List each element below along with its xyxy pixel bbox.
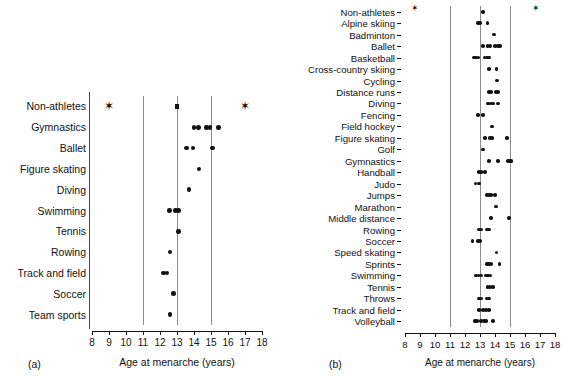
- data-point: [176, 208, 181, 213]
- data-point: [478, 239, 482, 243]
- row-tick: [397, 92, 401, 93]
- x-axis-tick-label: 8: [89, 337, 95, 348]
- gridline-15: [510, 6, 511, 327]
- panel-b-tag: (b): [329, 358, 342, 370]
- x-axis-tick-label: 10: [430, 339, 441, 350]
- x-axis-tick-label: 16: [222, 337, 233, 348]
- data-point: [488, 44, 492, 48]
- data-point: [489, 90, 493, 94]
- row-label: Cycling: [364, 75, 395, 86]
- x-axis-tick-label: 11: [138, 337, 148, 348]
- row-label: Non-athletes: [341, 6, 395, 17]
- row-tick: [397, 310, 401, 311]
- data-point: [168, 250, 173, 255]
- data-point: [510, 159, 514, 163]
- row-label: Jumps: [367, 190, 395, 201]
- data-point: [490, 136, 494, 140]
- x-axis-tick-label: 13: [475, 339, 486, 350]
- row-tick: [397, 275, 401, 276]
- x-axis-tick-label: 17: [239, 337, 250, 348]
- panel-a: (a) Age at menarche (years) Non-athletes…: [0, 0, 285, 383]
- row-label: Rowing: [51, 246, 86, 258]
- data-point: [487, 308, 491, 312]
- data-point: [498, 44, 502, 48]
- x-axis-tick: [126, 331, 127, 335]
- data-point: [489, 274, 493, 278]
- x-axis-tick: [510, 333, 511, 337]
- data-point: [496, 159, 500, 163]
- x-axis-tick-label: 15: [505, 339, 516, 350]
- row-label: Diving: [368, 98, 395, 109]
- row-tick: [397, 172, 401, 173]
- row-label: Track and field: [18, 267, 86, 279]
- x-axis-tick: [435, 333, 436, 337]
- data-point: [184, 146, 189, 151]
- data-point: [479, 274, 483, 278]
- data-point: [495, 67, 499, 71]
- row-label: Tennis: [56, 225, 86, 237]
- row-label: Gymnastics: [345, 155, 395, 166]
- gridline-13: [480, 6, 481, 327]
- row-label: Figure skating: [335, 132, 395, 143]
- x-axis-tick: [177, 331, 178, 335]
- x-axis-tick-label: 10: [120, 337, 131, 348]
- row-label: Marathon: [354, 201, 395, 212]
- row-tick: [397, 23, 401, 24]
- row-label: Judo: [374, 178, 395, 189]
- data-point: [490, 125, 494, 129]
- x-axis-tick: [262, 331, 263, 335]
- row-label: Basketball: [351, 52, 395, 63]
- row-label: Distance runs: [336, 86, 395, 97]
- row-label: Swimming: [38, 205, 86, 217]
- x-axis-tick-label: 17: [535, 339, 546, 350]
- row-label: Alpine skiing: [341, 18, 395, 29]
- x-axis-tick: [540, 333, 541, 337]
- row-label: Sprints: [365, 258, 395, 269]
- row-tick: [397, 103, 401, 104]
- row-label: Golf: [377, 144, 395, 155]
- gridline-15: [211, 96, 212, 325]
- data-point: [491, 102, 495, 106]
- x-axis-tick-label: 15: [205, 337, 216, 348]
- data-point: [481, 44, 485, 48]
- x-axis-tick-label: 18: [256, 337, 267, 348]
- x-axis-tick-label: 11: [445, 339, 455, 350]
- row-label: Non-athletes: [26, 100, 86, 112]
- row-tick: [397, 149, 401, 150]
- data-point: [484, 319, 488, 323]
- x-axis-tick: [465, 333, 466, 337]
- menarche-age-figure: (a) Age at menarche (years) Non-athletes…: [0, 0, 571, 383]
- data-point: [165, 271, 170, 276]
- row-tick: [397, 138, 401, 139]
- data-point: [496, 90, 500, 94]
- data-point: [487, 56, 491, 60]
- x-axis-tick: [228, 331, 229, 335]
- row-label: Ballet: [60, 142, 86, 154]
- data-point: [489, 216, 493, 220]
- data-point: [191, 146, 196, 151]
- data-point: [471, 239, 475, 243]
- row-tick: [397, 81, 401, 82]
- gridline-11: [143, 96, 144, 325]
- x-axis-tick: [525, 333, 526, 337]
- x-axis-tick: [92, 331, 93, 335]
- row-label: Soccer: [53, 288, 86, 300]
- row-tick: [397, 115, 401, 116]
- data-point: [486, 21, 490, 25]
- x-axis-tick-label: 14: [490, 339, 501, 350]
- data-point: [480, 228, 484, 232]
- data-point-star: [415, 8, 419, 12]
- data-point: [487, 159, 491, 163]
- panel-b: (b) Age at menarche (years) Non-athletes…: [285, 0, 571, 383]
- data-point: [480, 297, 484, 301]
- x-axis-tick-label: 8: [402, 339, 407, 350]
- row-label: Fencing: [361, 109, 395, 120]
- row-tick: [397, 126, 401, 127]
- data-point: [187, 187, 192, 192]
- data-point: [476, 113, 480, 117]
- data-point: [481, 148, 485, 152]
- row-tick: [397, 321, 401, 322]
- row-tick: [397, 264, 401, 265]
- row-tick: [397, 298, 401, 299]
- data-point: [491, 285, 495, 289]
